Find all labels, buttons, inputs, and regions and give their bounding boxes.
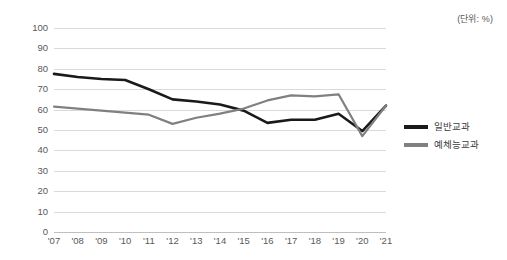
legend-label-1: 예체능교과	[434, 140, 479, 150]
y-tick-label-20: 20	[0, 186, 48, 196]
x-tick-label-6: '13	[190, 236, 202, 246]
x-tick-label-14: '21	[380, 236, 392, 246]
legend-swatch-icon-0	[404, 125, 428, 129]
legend-label-0: 일반교과	[434, 122, 470, 132]
y-tick-label-40: 40	[0, 146, 48, 156]
legend-item-0[interactable]: 일반교과	[404, 118, 504, 135]
y-tick-label-0: 0	[0, 227, 48, 237]
x-tick-label-2: '09	[95, 236, 107, 246]
x-tick-label-0: '07	[48, 236, 60, 246]
series-lines	[54, 28, 386, 232]
y-tick-label-30: 30	[0, 166, 48, 176]
y-tick-label-90: 90	[0, 44, 48, 54]
y-tick-label-60: 60	[0, 105, 48, 115]
legend: 일반교과예체능교과	[404, 118, 504, 154]
y-axis: 1009080706050403020100	[0, 28, 48, 232]
y-tick-label-10: 10	[0, 207, 48, 217]
x-tick-label-1: '08	[72, 236, 84, 246]
y-tick-label-70: 70	[0, 84, 48, 94]
x-tick-label-12: '19	[332, 236, 344, 246]
x-tick-label-4: '11	[143, 236, 155, 246]
legend-swatch-icon-1	[404, 143, 428, 147]
y-tick-label-100: 100	[0, 23, 48, 33]
x-tick-label-5: '12	[166, 236, 178, 246]
y-tick-label-80: 80	[0, 64, 48, 74]
unit-note: (단위: %)	[457, 12, 493, 25]
x-tick-label-10: '17	[285, 236, 297, 246]
x-tick-label-9: '16	[261, 236, 273, 246]
x-tick-label-13: '20	[356, 236, 368, 246]
x-tick-label-8: '15	[238, 236, 250, 246]
x-axis: '07'08'09'10'11'12'13'14'15'16'17'18'19'…	[54, 236, 386, 252]
x-tick-label-11: '18	[309, 236, 321, 246]
y-tick-label-50: 50	[0, 125, 48, 135]
x-tick-label-3: '10	[119, 236, 131, 246]
legend-item-1[interactable]: 예체능교과	[404, 136, 504, 153]
gridline-0	[54, 232, 386, 233]
line-chart: (단위: %) 1009080706050403020100 '07'08'09…	[0, 0, 507, 260]
series-line-0	[54, 74, 386, 131]
x-tick-label-7: '14	[214, 236, 226, 246]
plot-area	[54, 28, 386, 232]
